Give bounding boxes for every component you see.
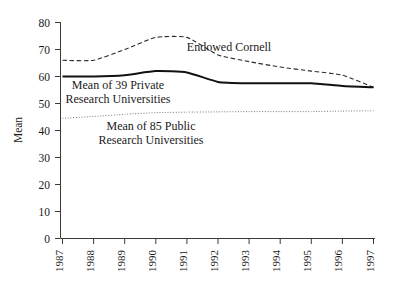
y-tick-label: 30 xyxy=(39,152,51,164)
annotation-line: Mean of 85 Public xyxy=(107,119,196,133)
annotation-line: Endowed Cornell xyxy=(187,40,272,54)
line-chart: 80 70 60 50 40 30 20 10 0 Mean xyxy=(0,0,403,285)
y-tick-label: 50 xyxy=(39,98,51,110)
x-tick-marks xyxy=(63,239,374,245)
y-axis-title: Mean xyxy=(12,117,24,143)
y-tick-labels: 80 70 60 50 40 30 20 10 0 xyxy=(39,17,51,245)
annotation-private-universities: Mean of 39 PrivateResearch Universities xyxy=(66,78,171,106)
y-tick-label: 70 xyxy=(39,44,51,56)
x-tick-label-1988: 1988 xyxy=(84,250,96,273)
annotation-layer: Endowed CornellMean of 39 PrivateResearc… xyxy=(66,40,272,147)
y-tick-label: 80 xyxy=(39,17,51,29)
x-tick-label-1996: 1996 xyxy=(332,250,344,273)
y-tick-label: 20 xyxy=(39,179,51,191)
x-tick-label-1995: 1995 xyxy=(301,250,313,273)
annotation-public-universities: Mean of 85 PublicResearch Universities xyxy=(99,119,204,147)
x-tick-label-1993: 1993 xyxy=(239,250,251,273)
annotation-line: Research Universities xyxy=(99,133,204,147)
x-tick-label-1992: 1992 xyxy=(208,250,220,272)
y-tick-label: 10 xyxy=(39,206,51,218)
x-tick-label-1994: 1994 xyxy=(270,250,282,273)
annotation-line: Mean of 39 Private xyxy=(72,78,164,92)
chart-container: 80 70 60 50 40 30 20 10 0 Mean xyxy=(0,0,403,285)
y-tick-label: 60 xyxy=(39,71,51,83)
x-tick-label-1990: 1990 xyxy=(146,250,158,273)
x-tick-label-1987: 1987 xyxy=(53,250,65,273)
annotation-endowed-cornell: Endowed Cornell xyxy=(187,40,272,54)
y-tick-label: 0 xyxy=(44,233,50,245)
x-tick-label-1991: 1991 xyxy=(177,250,189,272)
series-line-dotted xyxy=(63,111,374,119)
x-tick-label-1997: 1997 xyxy=(364,250,376,273)
x-tick-label-1989: 1989 xyxy=(115,250,127,273)
y-tick-marks xyxy=(55,23,61,239)
x-tick-labels: 1987 1988 1989 1990 1991 1992 1993 1994 … xyxy=(53,250,376,273)
y-tick-label: 40 xyxy=(39,125,51,137)
annotation-line: Research Universities xyxy=(66,92,171,106)
